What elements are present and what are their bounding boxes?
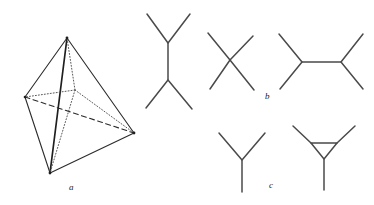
edge-center-right (75, 90, 134, 133)
panel-label-a: a (69, 183, 74, 192)
dimethylbutane-left-branch (279, 34, 302, 89)
skeletal-row-1 (146, 14, 363, 109)
edge-center-apex (67, 38, 75, 90)
hexane-lower-chain (146, 80, 192, 109)
structure-n-hexane (146, 14, 192, 109)
neopentane-bond-3 (210, 60, 230, 89)
panel-label-b: b (265, 92, 270, 101)
tetrahedron-group (24, 37, 136, 175)
tetrahedron-edges (25, 38, 134, 173)
edge-center-left (25, 90, 75, 97)
cyclopropane-ring (311, 143, 337, 159)
edge-center-bottom (50, 90, 75, 173)
figure-canvas (0, 0, 374, 205)
structure-cyclopropane (293, 126, 355, 190)
skeletal-row-2 (219, 126, 355, 192)
neopentane-bond-2 (230, 36, 253, 60)
structure-dimethylbutane (279, 34, 363, 89)
vertex-left (24, 96, 27, 99)
neopentane-bond-4 (230, 60, 254, 90)
vertex-right (133, 132, 136, 135)
neopentane-bond-1 (208, 33, 230, 60)
vertex-apex (66, 37, 69, 40)
cyclopropane-substituent-right (337, 126, 355, 143)
structure-neopentane (208, 33, 254, 90)
edge-left-bottom (25, 97, 50, 173)
tetrahedron-vertices (24, 37, 136, 175)
vertex-bottom (49, 172, 52, 175)
edge-apex-right (67, 38, 134, 133)
hexane-upper-chain (147, 14, 190, 43)
edge-right-bottom (50, 133, 134, 173)
edge-left-right (25, 97, 134, 133)
panel-label-c: c (269, 181, 273, 190)
isobutane-upper-arms (219, 133, 265, 160)
dimethylbutane-right-branch (341, 34, 363, 89)
structure-isobutane (219, 133, 265, 192)
cyclopropane-substituent-left (293, 126, 311, 143)
